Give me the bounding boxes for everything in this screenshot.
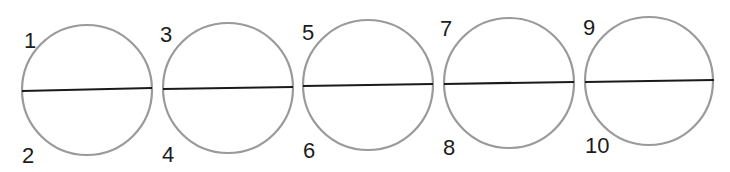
- circle-group-4: 7 8: [440, 16, 574, 160]
- circle-group-1: 1 2: [22, 25, 152, 168]
- label-3: 3: [160, 22, 172, 47]
- circle-group-3: 5 6: [302, 20, 433, 163]
- circle-group-2: 3 4: [160, 22, 293, 167]
- circle-5-diameter: [585, 80, 714, 82]
- circle-3-diameter: [303, 84, 433, 86]
- label-4: 4: [162, 142, 174, 167]
- label-5: 5: [302, 20, 314, 45]
- label-9: 9: [583, 15, 595, 40]
- label-1: 1: [24, 28, 36, 53]
- label-8: 8: [443, 135, 455, 160]
- circle-1-diameter: [22, 88, 152, 91]
- label-6: 6: [303, 138, 315, 163]
- label-10: 10: [585, 133, 609, 158]
- circles-diagram: 1 2 3 4 5 6 7 8 9 10: [0, 0, 730, 172]
- circle-4-diameter: [444, 82, 574, 84]
- circle-2-diameter: [163, 87, 293, 89]
- label-7: 7: [440, 16, 452, 41]
- label-2: 2: [22, 143, 34, 168]
- circle-group-5: 9 10: [583, 15, 714, 158]
